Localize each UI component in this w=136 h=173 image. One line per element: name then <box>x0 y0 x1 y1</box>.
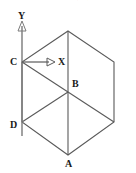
vertex-label-a: A <box>65 159 72 169</box>
vertex-label-c: C <box>10 57 17 67</box>
axis-label-x: X <box>58 57 65 67</box>
figure-screenshot: 如图所示的正六边形是一个正方体的直观图 Y C X B D A <box>0 0 136 173</box>
geometry-diagram <box>0 0 136 173</box>
inner-edge-b-lower-right <box>68 92 114 122</box>
inner-edge-b-d <box>22 92 68 122</box>
vertex-label-d: D <box>10 120 17 130</box>
vertex-label-b: B <box>72 79 79 89</box>
axis-label-y: Y <box>18 11 25 21</box>
